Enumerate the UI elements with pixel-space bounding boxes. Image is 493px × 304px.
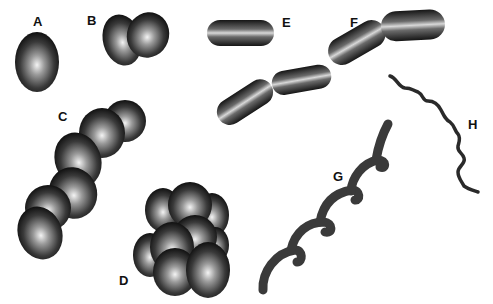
coccus-a: [15, 32, 59, 92]
bacteria-diagram: [0, 0, 493, 304]
label-d: D: [119, 274, 128, 287]
spirochete-h: [390, 76, 478, 192]
label-g: G: [333, 170, 343, 183]
diplococcus-b: [97, 6, 176, 70]
bacillus-e: [207, 20, 274, 46]
label-b: B: [87, 14, 96, 27]
label-h: H: [468, 118, 477, 131]
label-e: E: [282, 16, 291, 29]
streptococcus-c: [10, 100, 146, 266]
spirillum-g: [263, 124, 388, 290]
label-f: F: [350, 16, 358, 29]
staphylococcus-d: [133, 182, 230, 298]
label-a: A: [33, 15, 42, 28]
label-c: C: [58, 110, 67, 123]
